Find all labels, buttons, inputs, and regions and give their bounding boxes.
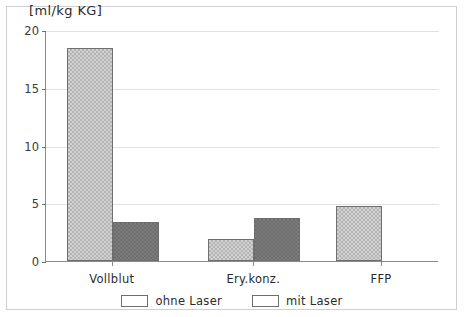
bar-vollblut-ohne-laser (67, 48, 113, 261)
y-axis-tick-label: 20 (24, 24, 39, 38)
legend-label-ohne-laser: ohne Laser (155, 294, 222, 308)
y-axis-tick-mark (42, 147, 46, 148)
x-axis-tick-mark (381, 262, 382, 266)
chart-title: [ml/kg KG] (29, 3, 102, 18)
y-axis-tick-label: 5 (32, 197, 39, 211)
legend-swatch-mit-laser (252, 295, 279, 307)
legend-swatch-ohne-laser (121, 295, 148, 307)
y-axis-tick-mark (42, 89, 46, 90)
y-axis-tick-label: 0 (32, 255, 39, 269)
y-axis-tick-mark (42, 262, 46, 263)
y-axis-tick-label: 10 (24, 140, 39, 154)
y-axis-tick-label: 15 (24, 82, 39, 96)
bar-ffp-ohne-laser (336, 206, 382, 261)
x-axis-label-vollblut: Vollblut (89, 272, 134, 286)
x-axis-label-ffp: FFP (370, 272, 391, 286)
legend-item-ohne-laser: ohne Laser (121, 294, 222, 308)
chart-legend: ohne Laser mit Laser (0, 294, 464, 308)
x-axis-label-ery-konz-: Ery.konz. (226, 272, 280, 286)
y-axis-tick-mark (42, 204, 46, 205)
plot-area: 05101520 (45, 31, 438, 262)
gridline (46, 31, 439, 32)
bar-chart-figure: [ml/kg KG] 05101520 ohne Laser mit Laser… (0, 0, 464, 317)
y-axis-tick-mark (42, 31, 46, 32)
x-axis-tick-mark (253, 262, 254, 266)
x-axis-tick-mark (112, 262, 113, 266)
bar-vollblut-mit-laser (113, 222, 159, 261)
legend-label-mit-laser: mit Laser (286, 294, 343, 308)
bar-ery-konz--mit-laser (254, 218, 300, 261)
bar-ery-konz--ohne-laser (208, 239, 254, 261)
legend-item-mit-laser: mit Laser (252, 294, 343, 308)
